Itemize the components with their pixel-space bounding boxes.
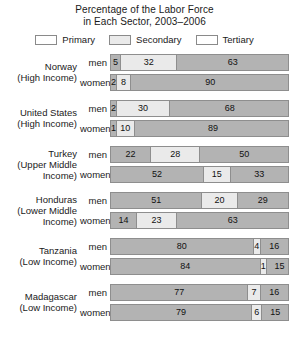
bar-segment-secondary-tanzania-men: 4 xyxy=(253,239,260,254)
bar-segment-tertiary-turkey-men: 50 xyxy=(199,147,288,162)
labor-force-chart: Percentage of the Labor Force in Each Se… xyxy=(0,0,289,363)
bar-segment-tertiary-honduras-women: 63 xyxy=(176,213,288,228)
bar-segment-tertiary-turkey-women: 33 xyxy=(230,167,288,182)
bar-row-united-states-women: women11089 xyxy=(80,120,289,137)
chart-legend: Primary Secondary Tertiary xyxy=(0,34,289,45)
stacked-bar-united-states-women: 11089 xyxy=(110,120,289,137)
bar-value-label: 15 xyxy=(274,261,284,271)
country-group-madagascar: Madagascar(Low Income)men77716women79615 xyxy=(0,282,289,322)
bar-segment-secondary-madagascar-men: 7 xyxy=(247,285,259,300)
country-name: Honduras xyxy=(0,194,77,205)
bar-value-label: 7 xyxy=(251,287,256,297)
bar-segment-secondary-norway-men: 32 xyxy=(120,55,177,70)
country-group-united-states: United States(High Income)men23068women1… xyxy=(0,98,289,138)
country-label-tanzania: Tanzania(Low Income) xyxy=(0,245,80,267)
bar-segment-tertiary-madagascar-women: 15 xyxy=(261,305,288,320)
country-name: Tanzania xyxy=(0,245,77,256)
legend-label-tertiary: Tertiary xyxy=(223,34,254,45)
bar-value-label: 22 xyxy=(125,149,135,159)
bar-value-label: 77 xyxy=(174,287,184,297)
bar-segment-tertiary-united-states-men: 68 xyxy=(169,101,289,116)
bar-row-madagascar-men: men77716 xyxy=(80,284,289,301)
bar-value-label: 10 xyxy=(120,123,130,133)
bar-row-turkey-women: women521533 xyxy=(80,166,289,183)
bar-segment-primary-tanzania-men: 80 xyxy=(111,239,253,254)
bar-segment-tertiary-madagascar-men: 16 xyxy=(260,285,288,300)
bar-rows-turkey: men222850women521533 xyxy=(80,146,289,183)
bar-segment-secondary-united-states-women: 10 xyxy=(116,121,134,136)
bar-segment-primary-honduras-men: 51 xyxy=(111,193,201,208)
sex-label-men: men xyxy=(80,287,110,298)
legend-item-secondary: Secondary xyxy=(109,34,181,45)
bar-row-madagascar-women: women79615 xyxy=(80,304,289,321)
income-group-line: Income) xyxy=(0,216,77,227)
bar-segment-secondary-turkey-men: 28 xyxy=(150,147,200,162)
bar-value-label: 90 xyxy=(205,77,215,87)
country-name: United States xyxy=(0,107,77,118)
bar-value-label: 29 xyxy=(258,195,268,205)
country-label-madagascar: Madagascar(Low Income) xyxy=(0,291,80,313)
sex-label-men: men xyxy=(80,241,110,252)
chart-title: Percentage of the Labor Force in Each Se… xyxy=(0,0,289,28)
bar-rows-tanzania: men80416women84115 xyxy=(80,238,289,275)
bar-segment-secondary-turkey-women: 15 xyxy=(203,167,230,182)
bar-value-label: 16 xyxy=(269,287,279,297)
bar-value-label: 79 xyxy=(176,307,186,317)
legend-item-tertiary: Tertiary xyxy=(196,34,254,45)
sex-label-women: women xyxy=(80,261,110,272)
legend-swatch-tertiary xyxy=(196,35,218,45)
bar-value-label: 50 xyxy=(239,149,249,159)
chart-title-line-2: in Each Sector, 2003–2006 xyxy=(0,16,289,28)
bar-segment-secondary-norway-women: 8 xyxy=(116,75,130,90)
income-group-line: (Upper Middle xyxy=(0,159,77,170)
stacked-bar-united-states-men: 23068 xyxy=(110,100,289,117)
country-label-turkey: Turkey(Upper MiddleIncome) xyxy=(0,148,80,181)
bar-segment-primary-madagascar-men: 77 xyxy=(111,285,247,300)
bar-segment-primary-norway-men: 5 xyxy=(111,55,120,70)
bar-row-united-states-men: men23068 xyxy=(80,100,289,117)
bar-row-norway-men: men53263 xyxy=(80,54,289,71)
country-label-united-states: United States(High Income) xyxy=(0,107,80,129)
bar-segment-tertiary-honduras-men: 29 xyxy=(237,193,288,208)
bar-value-label: 63 xyxy=(228,57,238,67)
legend-label-secondary: Secondary xyxy=(136,34,181,45)
income-group-line: (High Income) xyxy=(0,72,77,83)
country-group-turkey: Turkey(Upper MiddleIncome)men222850women… xyxy=(0,144,289,184)
bar-row-honduras-women: women142363 xyxy=(80,212,289,229)
stacked-bar-turkey-women: 521533 xyxy=(110,166,289,183)
country-group-norway: Norway(High Income)men53263women2890 xyxy=(0,52,289,92)
bar-value-label: 52 xyxy=(152,169,162,179)
income-group-line: (Lower Middle xyxy=(0,205,77,216)
sex-label-men: men xyxy=(80,57,110,68)
bar-segment-tertiary-norway-women: 90 xyxy=(130,75,289,90)
sex-label-women: women xyxy=(80,169,110,180)
bar-value-label: 20 xyxy=(214,195,224,205)
country-group-list: Norway(High Income)men53263women2890Unit… xyxy=(0,52,289,322)
bar-segment-primary-madagascar-women: 79 xyxy=(111,305,251,320)
bar-rows-madagascar: men77716women79615 xyxy=(80,284,289,321)
stacked-bar-tanzania-women: 84115 xyxy=(110,258,289,275)
country-group-tanzania: Tanzania(Low Income)men80416women84115 xyxy=(0,236,289,276)
bar-value-label: 28 xyxy=(170,149,180,159)
stacked-bar-madagascar-men: 77716 xyxy=(110,284,289,301)
bar-value-label: 33 xyxy=(254,169,264,179)
bar-value-label: 15 xyxy=(212,169,222,179)
bar-row-tanzania-women: women84115 xyxy=(80,258,289,275)
sex-label-women: women xyxy=(80,77,110,88)
legend-swatch-secondary xyxy=(109,35,131,45)
bar-value-label: 15 xyxy=(270,307,280,317)
stacked-bar-norway-men: 53263 xyxy=(110,54,289,71)
bar-segment-secondary-honduras-women: 23 xyxy=(136,213,177,228)
stacked-bar-madagascar-women: 79615 xyxy=(110,304,289,321)
bar-segment-tertiary-norway-men: 63 xyxy=(176,55,288,70)
legend-item-primary: Primary xyxy=(35,34,95,45)
stacked-bar-tanzania-men: 80416 xyxy=(110,238,289,255)
bar-row-norway-women: women2890 xyxy=(80,74,289,91)
bar-row-honduras-men: men512029 xyxy=(80,192,289,209)
sex-label-men: men xyxy=(80,149,110,160)
bar-value-label: 6 xyxy=(254,307,259,317)
bar-value-label: 68 xyxy=(225,103,235,113)
bar-segment-secondary-madagascar-women: 6 xyxy=(251,305,262,320)
stacked-bar-honduras-women: 142363 xyxy=(110,212,289,229)
bar-value-label: 80 xyxy=(177,241,187,251)
